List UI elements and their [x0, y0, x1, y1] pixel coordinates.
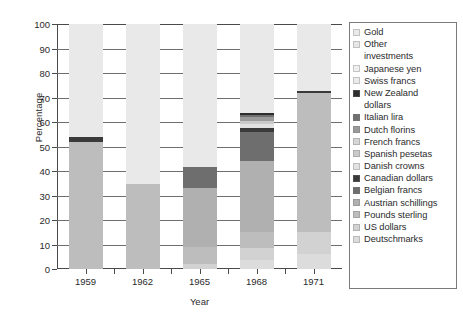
legend-item-label: Belgian francs: [364, 184, 422, 196]
x-minor-tick: [171, 269, 172, 274]
y-tick-10: [52, 245, 57, 246]
y-tick-20: [52, 220, 57, 221]
y-tick-0: [52, 269, 57, 270]
legend-item[interactable]: Spanish pesetas: [353, 148, 454, 160]
bar-segment-1968-italian-lira: [240, 115, 274, 117]
bar-1971: [297, 24, 331, 269]
x-tick-label-1968: 1968: [246, 276, 267, 287]
bar-segment-1968-spanish-pesetas: [240, 121, 274, 125]
chart-figure: Percentage 0102030405060708090100 195919…: [0, 0, 463, 323]
legend-swatch-icon: [353, 65, 360, 72]
bar-segment-1959-gold: [69, 24, 103, 137]
legend-item[interactable]: investments: [353, 50, 454, 62]
legend-item-label: Pounds sterling: [364, 209, 427, 221]
bar-segment-1959-canadian-dollars: [69, 137, 103, 142]
legend-item-label: Austrian schillings: [364, 197, 437, 209]
bar-segment-1962-pounds-sterling: [126, 184, 160, 269]
y-tick-label-100: 100: [34, 19, 50, 30]
x-tick-label-1971: 1971: [303, 276, 324, 287]
y-tick-30: [52, 196, 57, 197]
legend-item-label: Danish crowns: [364, 160, 424, 172]
bar-segment-1971-deutschmarks: [297, 254, 331, 269]
legend-swatch-icon: [353, 187, 360, 194]
legend-item[interactable]: Deutschmarks: [353, 233, 454, 245]
x-tick-label-1965: 1965: [189, 276, 210, 287]
legend-swatch-icon: [353, 114, 360, 121]
legend-item-label: US dollars: [364, 221, 406, 233]
legend-item-label: Japanese yen: [364, 63, 421, 75]
legend-swatch-icon: [353, 163, 360, 170]
y-tick-label-40: 40: [39, 166, 50, 177]
bar-1965: [183, 24, 217, 269]
bar-segment-1965-belgian-francs: [183, 167, 217, 188]
x-tick-label-1962: 1962: [132, 276, 153, 287]
legend-item-label: French francs: [364, 136, 420, 148]
x-axis-title: Year: [57, 296, 342, 307]
bar-segment-1965-pounds-sterling: [183, 247, 217, 264]
legend-item[interactable]: US dollars: [353, 221, 454, 233]
legend-swatch-icon: [353, 199, 360, 206]
bar-segment-1971-canadian-dollars: [297, 91, 331, 93]
y-tick-40: [52, 171, 57, 172]
bar-segment-1971-us-dollars: [297, 232, 331, 254]
bar-segment-1965-gold: [183, 24, 217, 167]
bar-segment-1962-gold: [126, 24, 160, 184]
bar-segment-1965-austrian-schillings: [183, 188, 217, 247]
x-minor-tick: [228, 269, 229, 274]
legend-swatch-icon: [353, 41, 360, 48]
legend-item[interactable]: Dutch florins: [353, 124, 454, 136]
y-tick-label-60: 60: [39, 117, 50, 128]
legend-item-label: Canadian dollars: [364, 172, 433, 184]
legend-swatch-icon: [353, 53, 360, 60]
legend-item-label: Dutch florins: [364, 124, 415, 136]
legend-swatch-icon: [353, 126, 360, 133]
legend-item[interactable]: Gold: [353, 26, 454, 38]
legend-item-label: dollars: [364, 99, 391, 111]
legend-item[interactable]: New Zealand: [353, 87, 454, 99]
y-tick-70: [52, 98, 57, 99]
legend-swatch-icon: [353, 90, 360, 97]
legend-item-label: Other: [364, 38, 387, 50]
legend-item[interactable]: French francs: [353, 136, 454, 148]
legend-item-label: Swiss francs: [364, 75, 416, 87]
legend-item[interactable]: Danish crowns: [353, 160, 454, 172]
legend-item[interactable]: Swiss francs: [353, 75, 454, 87]
legend-item-label: Spanish pesetas: [364, 148, 432, 160]
plot-area: 0102030405060708090100 19591962196519681…: [57, 24, 342, 269]
y-tick-label-80: 80: [39, 68, 50, 79]
legend-swatch-icon: [353, 224, 360, 231]
legend-item-label: New Zealand: [364, 87, 418, 99]
y-tick-label-20: 20: [39, 215, 50, 226]
y-tick-80: [52, 73, 57, 74]
y-tick-90: [52, 49, 57, 50]
legend-item[interactable]: Pounds sterling: [353, 209, 454, 221]
legend-swatch-icon: [353, 211, 360, 218]
bar-1968: [240, 24, 274, 269]
bar-segment-1968-deutschmarks: [240, 260, 274, 269]
bar-segment-1968-new-zealand-dollars: [240, 113, 274, 114]
legend-item[interactable]: Canadian dollars: [353, 172, 454, 184]
bar-segment-1968-gold: [240, 24, 274, 113]
legend-item-label: investments: [364, 50, 413, 62]
bar-segment-1968-danish-crowns: [240, 124, 274, 128]
legend-swatch-icon: [353, 29, 360, 36]
legend-item[interactable]: Belgian francs: [353, 184, 454, 196]
y-tick-100: [52, 24, 57, 25]
legend-swatch-icon: [353, 102, 360, 109]
legend-item[interactable]: Japanese yen: [353, 63, 454, 75]
legend-item[interactable]: Austrian schillings: [353, 197, 454, 209]
bar-segment-1968-austrian-schillings: [240, 161, 274, 232]
legend-item-label: Gold: [364, 26, 383, 38]
x-tick-1959: [86, 269, 87, 274]
bar-1959: [69, 24, 103, 269]
bar-segment-1971-pounds-sterling: [297, 93, 331, 233]
y-tick-label-90: 90: [39, 43, 50, 54]
bar-segment-1968-dutch-florins: [240, 117, 274, 121]
bar-segment-1968-canadian-dollars: [240, 128, 274, 132]
x-tick-1962: [143, 269, 144, 274]
legend-item[interactable]: Italian lira: [353, 111, 454, 123]
x-tick-1971: [314, 269, 315, 274]
legend-swatch-icon: [353, 150, 360, 157]
legend-item[interactable]: Other: [353, 38, 454, 50]
legend-item[interactable]: dollars: [353, 99, 454, 111]
